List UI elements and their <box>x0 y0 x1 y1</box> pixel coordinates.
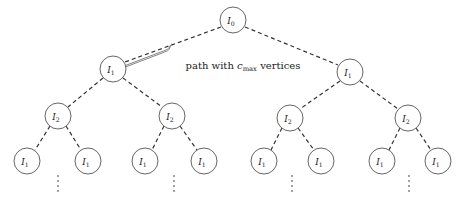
edge-l1-right-to-l2-c <box>300 81 340 109</box>
edge-l2-a-to-l3-a1 <box>35 126 50 150</box>
node-l3-d2: I1 <box>425 148 451 174</box>
edge-l2-b-to-l3-b1 <box>152 126 164 150</box>
edge-l2-c-to-l3-c2 <box>298 128 314 150</box>
edge-l2-d-to-l3-d2 <box>416 128 431 150</box>
node-l3-c2-subscript: 1 <box>319 160 323 167</box>
node-l2-b: I2 <box>159 103 185 129</box>
node-l3-d1-subscript: 1 <box>380 160 384 167</box>
edge-l1-right-to-l2-d <box>360 81 398 109</box>
brace-label-symbol-subscript: max <box>243 65 257 73</box>
node-l1-right-subscript: 1 <box>348 71 352 78</box>
edge-l1-left-to-l2-b <box>123 78 162 107</box>
vertical-dots-c <box>291 175 293 192</box>
node-l1-right: I1 <box>337 59 363 85</box>
edge-l2-d-to-l3-d1 <box>389 128 400 150</box>
node-l3-a2: I1 <box>75 148 101 174</box>
edge-l1-left-to-l2-a <box>68 78 103 107</box>
node-l3-c1-subscript: 1 <box>262 160 266 167</box>
tree-diagram: path with cmax vertices I0 I1 I1 I2 I2 <box>0 0 466 199</box>
edge-l2-b-to-l3-b2 <box>180 126 197 150</box>
node-l3-a2-subscript: 1 <box>86 160 90 167</box>
edge-root-to-l1-left <box>125 27 221 62</box>
brace-label-suffix: vertices <box>257 60 300 71</box>
edge-l2-a-to-l3-a2 <box>66 126 81 150</box>
node-l2-d-subscript: 2 <box>406 117 410 124</box>
node-l3-c2: I1 <box>308 148 334 174</box>
node-l2-b-subscript: 2 <box>170 115 174 122</box>
node-l2-c: I2 <box>277 105 303 131</box>
brace-label: path with cmax vertices <box>186 60 301 73</box>
node-l3-d2-subscript: 1 <box>436 160 440 167</box>
node-l2-a-subscript: 2 <box>56 115 60 122</box>
node-l3-b2: I1 <box>191 148 217 174</box>
node-root-subscript: 0 <box>231 19 235 26</box>
node-l3-b1-subscript: 1 <box>143 160 147 167</box>
node-l3-b1: I1 <box>132 148 158 174</box>
node-l3-c1: I1 <box>251 148 277 174</box>
vertical-dots-a <box>57 175 59 192</box>
edge-group <box>35 27 431 150</box>
node-l2-d: I2 <box>395 105 421 131</box>
node-l3-d1: I1 <box>369 148 395 174</box>
node-l3-a1: I1 <box>14 148 40 174</box>
brace-label-prefix: path with <box>186 60 237 71</box>
node-l3-b2-subscript: 1 <box>202 160 206 167</box>
edge-l2-c-to-l3-c1 <box>271 128 282 150</box>
node-l2-c-subscript: 2 <box>288 117 292 124</box>
vertical-dots-d <box>408 175 410 192</box>
vertical-dots-b <box>173 175 175 192</box>
node-l2-a: I2 <box>45 103 71 129</box>
node-l1-left: I1 <box>100 56 126 82</box>
node-l1-left-subscript: 1 <box>111 68 115 75</box>
ellipsis-group <box>57 175 410 192</box>
node-root: I0 <box>220 7 246 33</box>
node-l3-a1-subscript: 1 <box>25 160 29 167</box>
